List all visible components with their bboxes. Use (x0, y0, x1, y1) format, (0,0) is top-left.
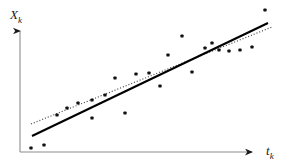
data-point (147, 71, 150, 74)
y-axis-label: Xk (10, 8, 22, 25)
data-point (123, 111, 126, 114)
x-axis-label: tk (266, 144, 274, 161)
data-point (227, 49, 230, 52)
x-axis-label-subscript: k (270, 151, 274, 161)
scatter-plot-figure: Xk tk (0, 0, 291, 168)
data-point (29, 146, 32, 149)
solid-fit-line (32, 23, 268, 136)
data-point (238, 48, 241, 51)
y-axis-label-base: X (10, 7, 18, 22)
data-point (190, 70, 193, 73)
data-point (180, 34, 183, 37)
data-point (210, 41, 213, 44)
plot-canvas (0, 0, 291, 168)
data-point (250, 45, 253, 48)
data-point (65, 106, 68, 109)
data-point (42, 143, 45, 146)
data-point (113, 76, 116, 79)
y-axis-label-subscript: k (18, 15, 22, 25)
data-point (166, 53, 169, 56)
data-point (90, 116, 93, 119)
data-point (76, 101, 79, 104)
data-point (134, 72, 137, 75)
least-squares-fit-line (32, 23, 268, 136)
axes-group (20, 31, 252, 152)
data-point (55, 113, 58, 116)
data-point (158, 84, 161, 87)
data-point (90, 98, 93, 101)
data-point (203, 46, 206, 49)
data-point (103, 93, 106, 96)
data-points-group (29, 8, 266, 149)
data-point (217, 48, 220, 51)
data-point (263, 8, 266, 11)
